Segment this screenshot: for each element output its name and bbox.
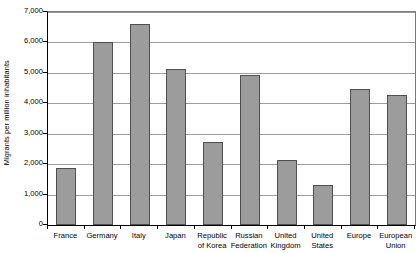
- x-axis-label-line: Japan: [165, 231, 186, 240]
- x-axis-category-label: RussianFederation: [231, 231, 268, 250]
- y-axis-tick-mark: [43, 72, 47, 73]
- x-axis-category-label: UnitedStates: [304, 231, 341, 250]
- x-axis-label-line: United: [275, 231, 297, 240]
- y-axis-tick-label: 6,000: [12, 38, 43, 46]
- x-axis-label-line: States: [304, 241, 341, 251]
- x-axis-tick-mark: [157, 225, 158, 229]
- y-axis-tick-label: 1,000: [12, 190, 43, 198]
- x-axis-label-line: Italy: [132, 231, 146, 240]
- y-axis-tick-labels: 01,0002,0003,0004,0005,0006,0007,000: [12, 0, 43, 232]
- bar[interactable]: [277, 160, 297, 225]
- x-axis-label-line: Kingdom: [267, 241, 304, 251]
- y-axis-tick-label: 2,000: [12, 159, 43, 167]
- x-axis-tick-mark: [304, 225, 305, 229]
- x-axis-label-line: Europe: [347, 231, 372, 240]
- x-axis-tick-mark: [120, 225, 121, 229]
- y-axis-tick-label: 3,000: [12, 129, 43, 137]
- bar[interactable]: [240, 75, 260, 225]
- x-axis-label-line: France: [54, 231, 78, 240]
- x-axis-label-line: European: [379, 231, 412, 240]
- x-axis-tick-mark: [414, 225, 415, 229]
- x-axis-label-line: of Korea: [194, 241, 231, 251]
- x-axis-tick-mark: [194, 225, 195, 229]
- y-axis-title-text: Migrants per million inhabitants: [3, 60, 10, 165]
- x-axis-category-label: Italy: [120, 231, 157, 241]
- bar[interactable]: [93, 42, 113, 225]
- y-axis-tick-label: 4,000: [12, 98, 43, 106]
- x-axis-category-label: France: [47, 231, 84, 241]
- y-axis-tick-mark: [43, 163, 47, 164]
- y-axis-tick-label: 7,000: [12, 7, 43, 15]
- x-axis-category-label: Republicof Korea: [194, 231, 231, 250]
- y-axis-tick-mark: [43, 41, 47, 42]
- x-axis-tick-mark: [341, 225, 342, 229]
- y-axis-tick-label: 5,000: [12, 68, 43, 76]
- x-axis-category-label: UnitedKingdom: [267, 231, 304, 250]
- y-axis-tick-label: 0: [12, 220, 43, 228]
- x-axis-label-line: United: [311, 231, 333, 240]
- bar[interactable]: [130, 24, 150, 225]
- plot-area: [47, 11, 416, 226]
- x-axis-category-labels: FranceGermanyItalyJapanRepublicof KoreaR…: [47, 231, 414, 253]
- bar[interactable]: [313, 185, 333, 225]
- x-axis-label-line: Republic: [197, 231, 227, 240]
- x-axis-label-line: Russian: [235, 231, 262, 240]
- x-axis-label-line: Germany: [86, 231, 117, 240]
- x-axis-category-label: EuropeanUnion: [377, 231, 414, 250]
- bar[interactable]: [56, 168, 76, 225]
- y-axis-tick-mark: [43, 102, 47, 103]
- y-axis-tick-mark: [43, 194, 47, 195]
- x-axis-tick-mark: [377, 225, 378, 229]
- bar[interactable]: [166, 69, 186, 225]
- x-axis-tick-mark: [47, 225, 48, 229]
- y-axis-tick-mark: [43, 11, 47, 12]
- y-axis-tick-mark: [43, 133, 47, 134]
- x-axis-category-label: Germany: [84, 231, 121, 241]
- x-axis-category-label: Europe: [341, 231, 378, 241]
- bar[interactable]: [203, 142, 223, 225]
- bar[interactable]: [387, 95, 407, 225]
- x-axis-tick-mark: [231, 225, 232, 229]
- x-axis-label-line: Federation: [231, 241, 268, 251]
- bar[interactable]: [350, 89, 370, 225]
- x-axis-category-label: Japan: [157, 231, 194, 241]
- bar-chart: Migrants per million inhabitants 01,0002…: [0, 0, 419, 253]
- x-axis-tick-mark: [267, 225, 268, 229]
- bars-group: [48, 12, 415, 225]
- x-axis-label-line: Union: [377, 241, 414, 251]
- x-axis-tick-mark: [84, 225, 85, 229]
